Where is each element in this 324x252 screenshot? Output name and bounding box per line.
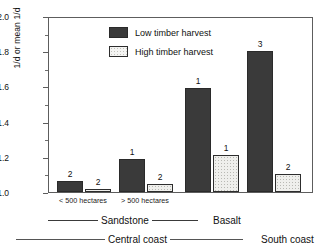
low-timber-swatch-icon (109, 27, 128, 38)
bar-basalt-low-harvest (185, 88, 211, 192)
bar-count-label: 3 (247, 40, 273, 49)
legend-item-high: High timber harvest (109, 44, 213, 59)
bar-under-500-high-harvest (85, 189, 111, 192)
bar-south-coast-low-harvest (247, 51, 273, 192)
chart-figure: 1/d or mean 1/d 1.01.21.41.61.82.0 22121… (0, 0, 324, 252)
legend-label-high: High timber harvest (135, 47, 213, 57)
bar-basalt-high-harvest (213, 155, 239, 192)
legend-item-low: Low timber harvest (109, 25, 213, 40)
group-sandstone-label: Sandstone (98, 215, 152, 226)
bar-count-label: 2 (85, 178, 111, 187)
bar-count-label: 1 (213, 144, 239, 153)
category-label-over-500: > 500 hectares (105, 196, 185, 205)
bar-count-label: 2 (275, 163, 301, 172)
bar-count-label: 1 (185, 77, 211, 86)
bar-over-500-high-harvest (147, 184, 173, 192)
group-basalt: Basalt (210, 212, 244, 228)
bar-over-500-low-harvest (119, 159, 145, 192)
legend-label-low: Low timber harvest (135, 28, 211, 38)
y-tick-label-1-0: 1.0 (0, 189, 9, 197)
bar-count-label: 2 (57, 170, 83, 179)
y-tick-label-1-8: 1.8 (0, 48, 9, 56)
group-sandstone: Sandstone (48, 212, 198, 228)
bar-count-label: 1 (119, 148, 145, 157)
bar-under-500-low-harvest (57, 181, 83, 192)
group-south-coast-label: South coast (258, 234, 317, 245)
y-tick-mark-major (43, 193, 48, 194)
plot-area: 22121132 Low timber harvest High timber … (48, 17, 313, 193)
group-central-coast-label: Central coast (105, 234, 170, 245)
y-tick-label-2-0: 2.0 (0, 13, 9, 21)
y-tick-label-1-6: 1.6 (0, 83, 9, 91)
y-tick-label-1-4: 1.4 (0, 119, 9, 127)
group-axis-level-2: Central coast South coast (0, 231, 324, 247)
y-tick-label-1-2: 1.2 (0, 154, 9, 162)
y-axis-title: 1/d or mean 1/d (12, 0, 22, 93)
bar-count-label: 2 (147, 173, 173, 182)
legend: Low timber harvest High timber harvest (109, 25, 213, 63)
bar-south-coast-high-harvest (275, 174, 301, 192)
group-axis-level-1: Sandstone Basalt (0, 212, 324, 228)
group-south-coast: South coast (258, 231, 317, 247)
group-basalt-label: Basalt (210, 215, 244, 226)
group-central-coast: Central coast (16, 231, 243, 247)
high-timber-swatch-icon (109, 46, 128, 57)
